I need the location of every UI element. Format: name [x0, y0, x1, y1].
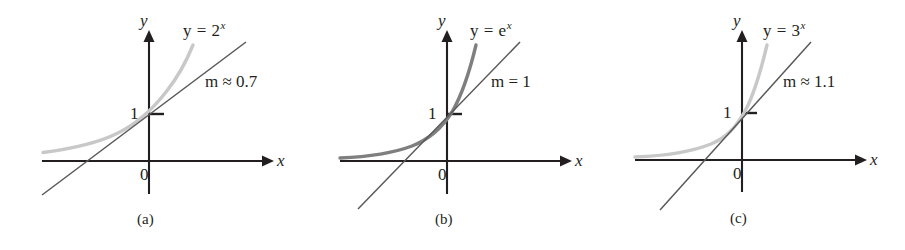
origin-label: 0 — [140, 166, 149, 183]
panel-c-graph — [595, 0, 905, 250]
x-axis-arrowhead — [855, 155, 867, 166]
slope-label: m = 1 — [491, 73, 531, 90]
curve-equation-exponent: x — [221, 19, 226, 31]
curve-equation-exponent: x — [507, 19, 512, 31]
curve-equation-label: y = ex — [470, 22, 512, 39]
origin-label: 0 — [733, 165, 742, 182]
panel-caption: (c) — [730, 211, 747, 226]
panel-caption: (b) — [435, 212, 453, 227]
tangent-line — [660, 42, 811, 210]
curve-equation-label: y = 3x — [763, 22, 805, 39]
y-tick-label-one: 1 — [130, 105, 139, 122]
exponential-functions-figure: y x 0 1 y = 2x m ≈ 0.7 (a) y x 0 1 y = e… — [0, 0, 905, 250]
y-axis-label: y — [733, 12, 741, 29]
curve-equation-base: y = 2 — [183, 21, 221, 40]
x-axis-arrowhead — [560, 156, 572, 167]
y-axis-label: y — [438, 12, 446, 29]
y-tick-label-one: 1 — [723, 104, 732, 121]
y-tick-label-one: 1 — [428, 105, 437, 122]
curve-equation-base: y = e — [470, 21, 507, 40]
y-axis-arrowhead — [442, 30, 453, 42]
x-axis-label: x — [277, 152, 285, 169]
exponential-curve — [340, 45, 476, 158]
panel-caption: (a) — [137, 212, 154, 227]
curve-equation-label: y = 2x — [183, 22, 225, 39]
x-axis-label: x — [870, 151, 878, 168]
y-axis-label: y — [140, 12, 148, 29]
slope-label: m ≈ 1.1 — [783, 73, 835, 90]
y-axis-arrowhead — [737, 30, 748, 42]
x-axis-arrowhead — [262, 156, 274, 167]
origin-label: 0 — [438, 166, 447, 183]
curve-equation-exponent: x — [801, 19, 806, 31]
panel-c: y x 0 1 y = 3x m ≈ 1.1 (c) — [595, 0, 893, 250]
slope-label: m ≈ 0.7 — [205, 73, 257, 90]
panel-b: y x 0 1 y = ex m = 1 (b) — [298, 0, 596, 250]
panel-a: y x 0 1 y = 2x m ≈ 0.7 (a) — [0, 0, 298, 250]
exponential-curve — [635, 45, 767, 157]
curve-equation-base: y = 3 — [763, 21, 801, 40]
x-axis-label: x — [575, 152, 583, 169]
y-axis-arrowhead — [144, 30, 155, 42]
